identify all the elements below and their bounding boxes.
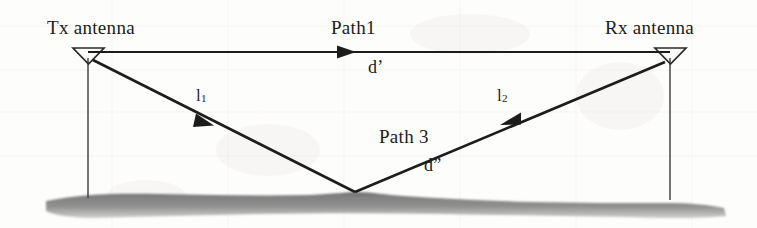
- path1-label: Path1: [331, 17, 376, 39]
- path3-label: Path 3: [379, 126, 429, 148]
- reflected-path-distance-label: d”: [424, 155, 441, 176]
- tx-antenna-label: Tx antenna: [47, 17, 135, 39]
- reflected-ray-length-label: l2: [497, 86, 508, 106]
- scan-smudges: [106, 14, 664, 212]
- rx-antenna-label: Rx antenna: [605, 17, 694, 39]
- incident-ray-line: [93, 60, 355, 192]
- two-ray-propagation-diagram: Tx antenna Rx antenna Path1 d’ l1 l2 Pat…: [0, 0, 757, 228]
- l1-subscript: 1: [201, 92, 207, 104]
- l2-subscript: 2: [502, 92, 508, 104]
- incident-ray-length-label: l1: [196, 86, 207, 106]
- direct-path-arrow-right-icon: [337, 46, 356, 59]
- direct-path-distance-label: d’: [368, 57, 383, 78]
- ground-terrain-icon: [46, 192, 726, 218]
- reflected-ray-arrow-up-right-icon: [500, 113, 521, 126]
